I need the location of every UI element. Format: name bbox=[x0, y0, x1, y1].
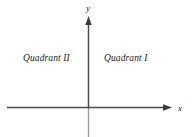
quadrant-one-label: Quadrant I bbox=[104, 54, 148, 64]
coordinate-plane-figure: Quadrant II Quadrant I y x bbox=[0, 0, 194, 137]
axes-graphic bbox=[0, 0, 194, 137]
x-axis-label: x bbox=[178, 104, 182, 113]
y-axis-arrowhead bbox=[85, 16, 91, 25]
quadrant-two-label: Quadrant II bbox=[23, 54, 70, 64]
x-axis-arrowhead bbox=[163, 104, 172, 110]
y-axis-label: y bbox=[86, 4, 90, 13]
